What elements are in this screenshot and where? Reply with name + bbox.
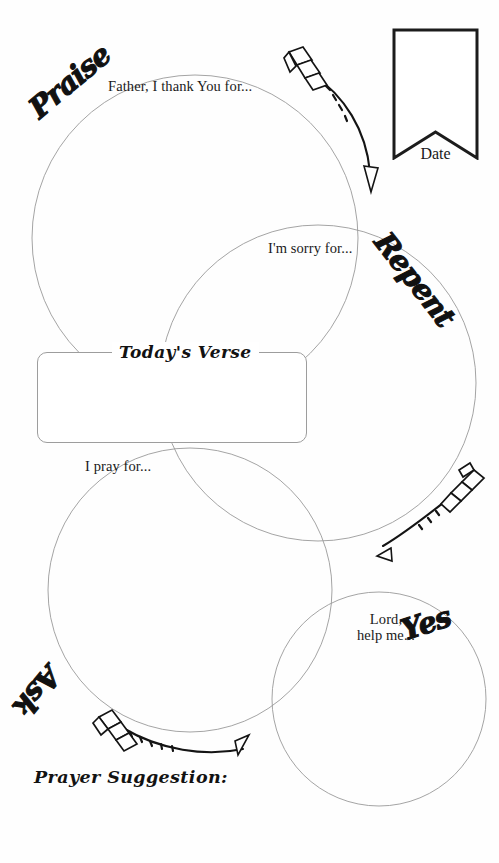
prompt-yes: Lord, help me... bbox=[355, 611, 417, 643]
prompt-repent: I'm sorry for... bbox=[268, 240, 352, 256]
prompt-yes-line2: help me... bbox=[357, 627, 415, 643]
todays-verse-title: Today's Verse bbox=[112, 342, 259, 362]
date-ribbon[interactable] bbox=[392, 28, 479, 160]
prompt-ask: I pray for... bbox=[85, 458, 151, 474]
arrow-repent-to-ask bbox=[377, 463, 484, 561]
date-label: Date bbox=[392, 145, 479, 163]
arrow-praise-to-repent bbox=[284, 47, 378, 192]
prompt-yes-line1: Lord, bbox=[370, 611, 402, 627]
worksheet-page: Date Today's Verse Praise Repent Ask Yes… bbox=[0, 0, 499, 863]
todays-verse-input[interactable] bbox=[37, 352, 307, 443]
prompt-praise: Father, I thank You for... bbox=[108, 78, 252, 94]
date-ribbon-shape bbox=[394, 30, 477, 158]
prayer-suggestion-title: Prayer Suggestion: bbox=[34, 767, 228, 787]
arrow-ask-to-yes bbox=[93, 710, 249, 755]
